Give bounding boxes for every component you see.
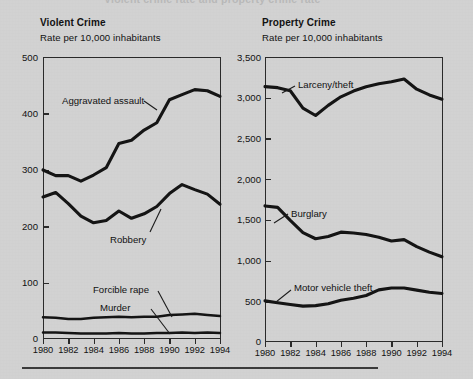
bottom-divider-rule (22, 367, 378, 369)
leader-murder (0, 0, 240, 379)
chart-page: Violent crime rate and property crime ra… (0, 0, 473, 379)
leader-motor-vehicle-theft (232, 0, 473, 379)
